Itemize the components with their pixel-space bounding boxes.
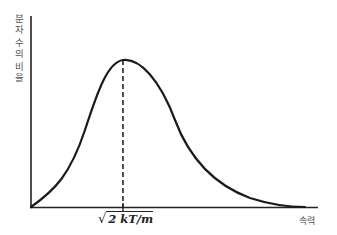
distribution-curve: [31, 60, 305, 207]
y-axis-label-char: 수: [13, 38, 25, 49]
peak-speed-label: √2 kT/m: [98, 211, 153, 226]
y-axis-label: 분자수의비율: [13, 14, 25, 83]
y-axis-label-char: 의: [13, 49, 25, 60]
y-axis-label-char: 율: [13, 73, 25, 84]
x-axis-label: 속력: [299, 214, 315, 227]
peak-speed-expression: 2 kT/m: [106, 211, 153, 226]
y-axis-label-char: 자: [13, 25, 25, 36]
speed-distribution-chart: 분자수의비율 √2 kT/m 속력: [0, 0, 337, 235]
chart-canvas: [0, 0, 337, 235]
y-axis-label-char: 비: [13, 62, 25, 73]
y-axis-label-char: 분: [13, 14, 25, 25]
